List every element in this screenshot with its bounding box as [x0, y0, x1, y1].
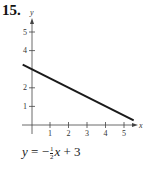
eq-var: x — [54, 144, 60, 159]
svg-text:5: 5 — [23, 28, 27, 37]
y-tick-labels: 1 2 4 5 — [23, 28, 27, 111]
eq-sign: − — [42, 144, 49, 159]
eq-lhs: y — [22, 144, 28, 159]
svg-text:5: 5 — [122, 129, 126, 138]
svg-text:3: 3 — [85, 129, 89, 138]
x-axis-arrow-icon — [132, 123, 138, 127]
svg-text:2: 2 — [67, 129, 71, 138]
svg-text:2: 2 — [23, 83, 27, 92]
eq-equals: = — [31, 144, 38, 159]
eq-plus: + — [64, 144, 71, 159]
line-series — [23, 65, 134, 121]
y-axis-arrow-icon — [30, 18, 34, 24]
eq-const: 3 — [74, 144, 81, 159]
svg-text:4: 4 — [23, 46, 27, 55]
svg-text:4: 4 — [104, 129, 108, 138]
x-axis-label: x — [138, 121, 143, 130]
x-tick-labels: 1 2 3 4 5 — [48, 129, 126, 138]
equation-label: y = −12x + 3 — [22, 144, 81, 161]
eq-fraction: 12 — [50, 146, 54, 161]
y-axis-label: y — [29, 8, 34, 17]
svg-text:1: 1 — [23, 102, 27, 111]
eq-denominator: 2 — [50, 154, 54, 161]
svg-text:1: 1 — [48, 129, 52, 138]
